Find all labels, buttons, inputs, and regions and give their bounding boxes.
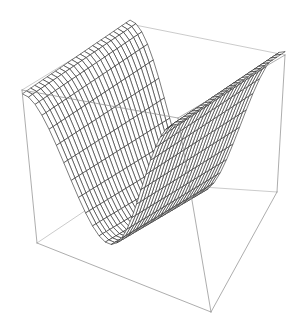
surface-plot-canvas [0, 0, 307, 334]
surface-plot-figure [0, 0, 307, 334]
